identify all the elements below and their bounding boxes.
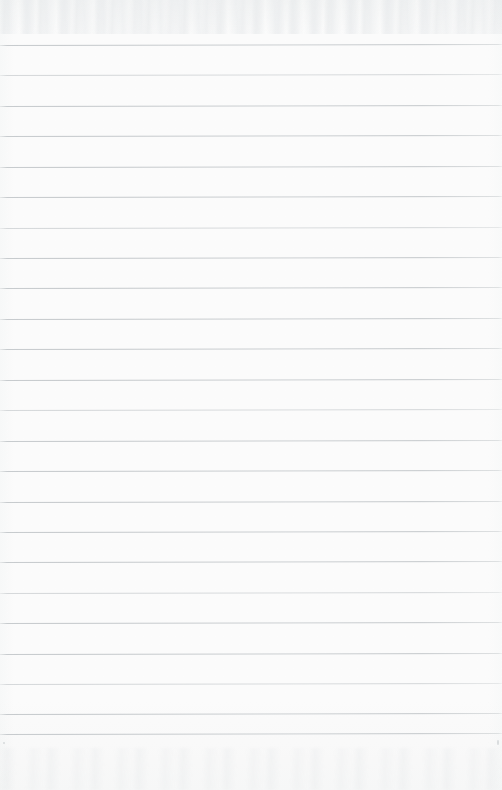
- paper-surface: [0, 0, 502, 790]
- scanned-page: [0, 0, 502, 790]
